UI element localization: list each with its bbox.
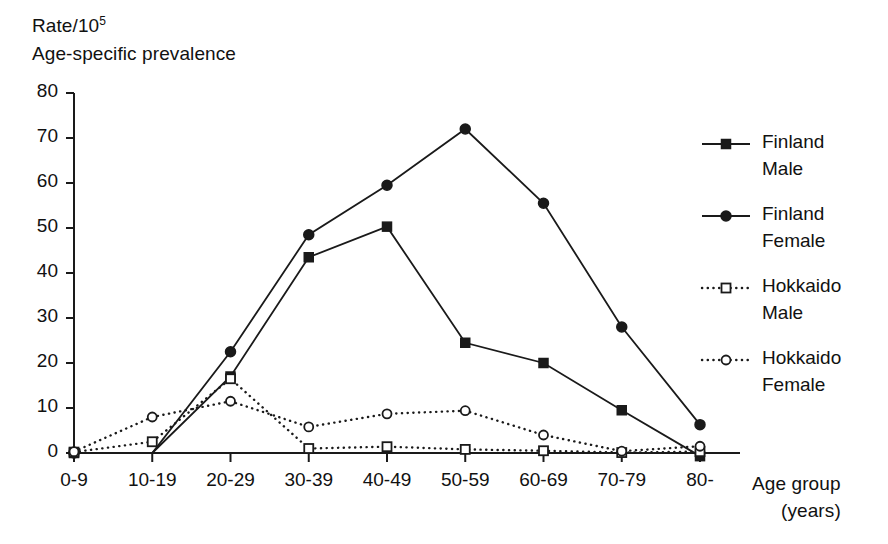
- data-point-filled-square: [461, 338, 470, 347]
- chart-legend: FinlandMaleFinlandFemaleHokkaidoMaleHokk…: [700, 132, 888, 420]
- series-finland-male: [70, 222, 705, 461]
- legend-label-line1: Hokkaido: [762, 344, 841, 371]
- x-axis-title-line2: (years): [781, 500, 841, 522]
- data-point-open-circle: [304, 422, 313, 431]
- y-axis-title-text: Rate/10: [32, 15, 99, 36]
- data-point-open-square: [148, 437, 157, 446]
- series-finland-female: [69, 124, 705, 458]
- legend-label-line2: Male: [762, 299, 841, 326]
- data-point-open-circle: [722, 356, 731, 365]
- data-point-open-square: [539, 446, 548, 455]
- data-point-filled-square: [304, 253, 313, 262]
- legend-label-line1: Finland: [762, 200, 825, 227]
- legend-label-line2: Female: [762, 227, 825, 254]
- y-axis-tick-label: 70: [14, 125, 58, 147]
- legend-entry[interactable]: HokkaidoMale: [700, 276, 888, 330]
- data-point-filled-square: [722, 140, 731, 149]
- legend-entry[interactable]: HokkaidoFemale: [700, 348, 888, 402]
- data-point-filled-circle: [617, 322, 627, 332]
- data-series-layer: [69, 124, 705, 461]
- y-axis-tick-label: 20: [14, 350, 58, 372]
- y-axis-tick-label: 10: [14, 395, 58, 417]
- legend-marker-filled-circle-icon: [700, 208, 752, 224]
- data-point-filled-circle: [539, 198, 549, 208]
- legend-marker-filled-square-icon: [700, 136, 752, 152]
- x-axis-ticks: [74, 453, 700, 462]
- y-axis-tick-label: 50: [14, 215, 58, 237]
- y-axis-title-superscript: 5: [99, 14, 106, 28]
- legend-label-line2: Male: [762, 155, 824, 182]
- data-point-open-circle: [617, 447, 626, 456]
- y-axis-tick-label: 80: [14, 80, 58, 102]
- legend-label: FinlandFemale: [762, 200, 825, 254]
- data-point-open-square: [226, 374, 235, 383]
- data-point-filled-square: [539, 359, 548, 368]
- legend-label: HokkaidoMale: [762, 272, 841, 326]
- data-point-filled-circle: [721, 211, 731, 221]
- y-axis-title-line2: Age-specific prevalence: [32, 43, 236, 65]
- data-point-filled-circle: [304, 230, 314, 240]
- data-point-filled-circle: [226, 347, 236, 357]
- data-point-filled-square: [383, 222, 392, 231]
- data-point-filled-circle: [460, 124, 470, 134]
- x-axis-tick-label: 80-: [650, 469, 750, 491]
- chart-figure: Rate/105 Age-specific prevalence Age gro…: [0, 0, 888, 544]
- series-line: [74, 227, 700, 457]
- data-point-open-circle: [539, 431, 548, 440]
- legend-marker-open-circle-icon: [700, 352, 752, 368]
- legend-entry[interactable]: FinlandFemale: [700, 204, 888, 258]
- legend-label: FinlandMale: [762, 128, 824, 182]
- data-point-open-circle: [70, 447, 79, 456]
- y-axis-tick-label: 40: [14, 260, 58, 282]
- legend-entry[interactable]: FinlandMale: [700, 132, 888, 186]
- y-axis-tick-label: 30: [14, 305, 58, 327]
- data-point-open-square: [304, 444, 313, 453]
- data-point-open-circle: [226, 397, 235, 406]
- legend-marker-open-square-icon: [700, 280, 752, 296]
- y-axis-title-line1: Rate/105: [32, 14, 106, 37]
- legend-label-line1: Finland: [762, 128, 824, 155]
- data-point-open-square: [383, 442, 392, 451]
- data-point-filled-square: [617, 406, 626, 415]
- legend-label-line2: Female: [762, 371, 841, 398]
- series-line: [74, 129, 700, 453]
- legend-label-line1: Hokkaido: [762, 272, 841, 299]
- data-point-open-square: [722, 284, 731, 293]
- data-point-filled-circle: [695, 420, 705, 430]
- data-point-open-circle: [148, 413, 157, 422]
- data-point-open-square: [461, 445, 470, 454]
- axis-lines: [74, 93, 740, 453]
- y-axis-ticks: [66, 93, 74, 453]
- data-point-open-circle: [696, 442, 705, 451]
- y-axis-tick-label: 60: [14, 170, 58, 192]
- y-axis-tick-label: 0: [14, 440, 58, 462]
- data-point-open-circle: [461, 406, 470, 415]
- legend-label: HokkaidoFemale: [762, 344, 841, 398]
- x-axis-title-line1: Age group: [752, 473, 841, 495]
- data-point-filled-circle: [382, 180, 392, 190]
- data-point-open-circle: [383, 409, 392, 418]
